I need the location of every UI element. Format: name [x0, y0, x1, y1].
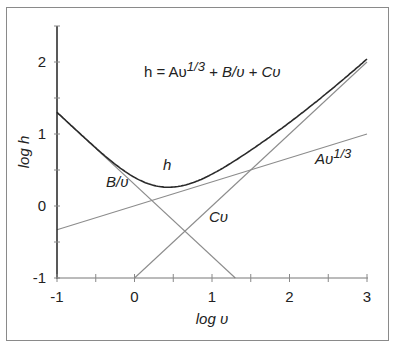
x-axis-label: log υ — [196, 310, 228, 327]
curve-label-c-v: Cυ — [209, 208, 228, 225]
formula-annotation: h = Aυ1/3 + B/υ + Cυ — [144, 59, 281, 80]
curve-label-b-over-v: B/υ — [106, 173, 128, 190]
y-tick-label: 1 — [38, 125, 46, 142]
x-tick-label: -1 — [50, 288, 63, 305]
curve-label-a-v-third: Aυ1/3 — [314, 146, 352, 167]
y-tick-label: 2 — [38, 53, 46, 70]
plot-area — [57, 59, 367, 278]
y-tick-label: -1 — [33, 269, 46, 286]
curve-label-h: h — [163, 156, 171, 173]
x-tick-label: 2 — [285, 288, 293, 305]
x-tick-label: 0 — [130, 288, 138, 305]
x-tick-label: 1 — [208, 288, 216, 305]
y-tick-label: 0 — [38, 197, 46, 214]
x-tick-label: 3 — [363, 288, 371, 305]
y-axis-label: log h — [15, 136, 32, 169]
chart-svg: -1 0 1 2 3 -1 0 1 2 log υ log h h = Aυ1/… — [0, 0, 396, 349]
